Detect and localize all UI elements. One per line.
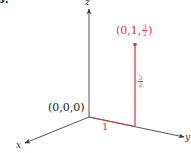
y-unit-segment [89, 117, 135, 127]
coordinate-diagram [0, 0, 191, 153]
height-frac-den: 2 [139, 82, 143, 88]
point-label-prefix: (0,1, [116, 24, 141, 37]
part-label: b. [0, 0, 9, 6]
point-label-suffix: ) [148, 24, 152, 37]
y-length-label: 1 [102, 121, 108, 132]
point-label: (0,1, 3 2 ) [116, 24, 153, 37]
x-axis-label: x [16, 140, 21, 150]
origin-label: (0,0,0) [48, 101, 85, 114]
point-frac-den: 2 [143, 31, 147, 37]
point-marker [133, 43, 137, 47]
z-axis-label: z [85, 0, 90, 7]
x-axis [25, 117, 89, 143]
point-label-fraction: 3 2 [142, 24, 147, 37]
y-axis-label: y [185, 132, 190, 142]
height-label: 3 2 [138, 75, 143, 88]
